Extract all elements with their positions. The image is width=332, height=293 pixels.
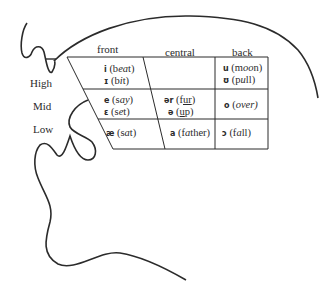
vowel-entry-u: u (moon) — [223, 63, 262, 74]
column-header-central: central — [165, 47, 195, 58]
row-label-low: Low — [33, 124, 53, 135]
column-header-back: back — [232, 47, 253, 58]
vowel-entry-schwa: ə (up) — [168, 107, 194, 118]
row-label-high: High — [30, 78, 52, 89]
column-header-front: front — [97, 44, 118, 55]
vowel-entry-upsilon: ʊ (pull) — [223, 75, 255, 86]
vowel-entry-epsilon: ɛ (set) — [104, 107, 130, 118]
vowel-diagram-drawing — [0, 0, 332, 293]
tongue-jaw-outline — [35, 100, 186, 280]
vowel-entry-small-i: ɪ (bit) — [104, 76, 129, 87]
vowel-entry-schwa-r: ər (fur) — [164, 95, 195, 106]
row-label-mid: Mid — [33, 101, 51, 112]
vowel-entry-open-o: ɔ (fall) — [222, 128, 251, 139]
nose-lip-outline — [21, 23, 55, 72]
vowel-entry-ash: æ (sat) — [106, 128, 136, 139]
vowel-entry-i: i (beat) — [104, 64, 134, 75]
vowel-entry-a: a (father) — [170, 128, 210, 139]
vowel-entry-e: e (say) — [104, 95, 133, 106]
vowel-entry-o: o (over) — [224, 100, 258, 111]
